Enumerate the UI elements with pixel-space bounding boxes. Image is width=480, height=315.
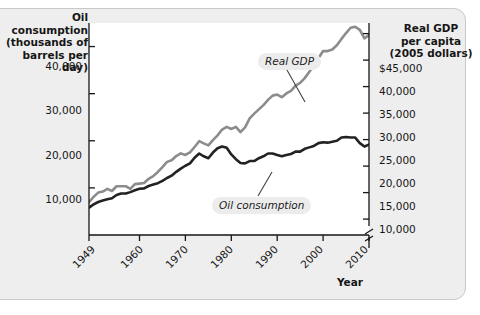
figure-inner: Oil consumption (thousands of barrels pe… (0, 0, 480, 315)
ytick-right-3: 30,000 (379, 131, 416, 143)
ytick-left-2: 20,000 (10, 149, 82, 161)
ytick-right-4: 25,000 (379, 154, 416, 166)
ytick-left-1: 30,000 (10, 104, 82, 116)
ytick-right-2: 35,000 (379, 108, 416, 120)
x-axis-title: Year (320, 276, 380, 289)
real-gdp-callout-label: Real GDP (258, 53, 321, 70)
ytick-left-0: 40,000 (10, 60, 82, 72)
xtick-3: 1980 (208, 243, 235, 270)
oil-consumption-callout-label: Oil consumption (212, 197, 311, 214)
xtick-0: 1949 (70, 243, 97, 270)
ytick-right-1: 40,000 (379, 85, 416, 97)
ytick-right-5: 20,000 (379, 177, 416, 189)
right-axis-title: Real GDP per capita (2005 dollars) (384, 22, 478, 60)
xtick-5: 2000 (298, 243, 325, 270)
xtick-4: 1990 (253, 243, 280, 270)
ytick-right-7: 10,000 (379, 223, 416, 235)
xtick-1: 1960 (118, 243, 145, 270)
xtick-6: 2010 (343, 243, 370, 270)
series-layer (89, 27, 369, 208)
ytick-left-3: 10,000 (10, 193, 82, 205)
xtick-2: 1970 (163, 243, 190, 270)
chart-screenshot: Oil consumption (thousands of barrels pe… (0, 0, 480, 315)
line-real-gdp (89, 27, 369, 202)
ytick-right-0: $45,000 (379, 62, 422, 74)
ytick-right-6: 15,000 (379, 200, 416, 212)
